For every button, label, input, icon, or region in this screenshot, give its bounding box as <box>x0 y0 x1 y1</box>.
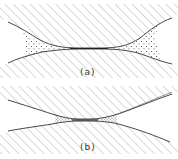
panel-a-label: (a) <box>80 67 96 77</box>
upper-solid-hatch <box>0 86 178 119</box>
panel-b-label: (b) <box>80 142 96 152</box>
diagram-canvas <box>0 0 178 159</box>
